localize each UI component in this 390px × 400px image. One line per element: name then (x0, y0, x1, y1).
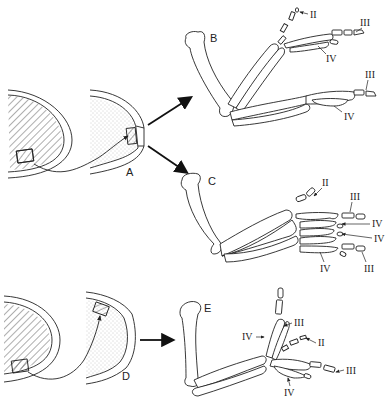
svg-text:II: II (322, 177, 329, 188)
svg-text:II: II (318, 337, 325, 348)
panel-label-e: E (204, 302, 211, 314)
svg-text:IV: IV (374, 233, 385, 244)
wing-skeleton-b (185, 8, 376, 126)
limb-graft-diagram: A B II III IV III (0, 0, 390, 400)
svg-text:IV: IV (284, 387, 295, 398)
arrow-to-b (148, 98, 190, 125)
arrow-to-c (148, 146, 186, 172)
svg-text:II: II (310, 9, 317, 20)
svg-text:IV: IV (344, 111, 355, 122)
host-limb-bud-top (90, 90, 144, 174)
donor-limb-bud-bottom (4, 296, 60, 382)
panel-label-b: B (210, 32, 217, 44)
svg-text:IV: IV (320, 263, 331, 274)
svg-text:IV: IV (242, 331, 253, 342)
svg-text:IV: IV (372, 218, 383, 229)
svg-text:III: III (364, 263, 374, 274)
svg-text:III: III (350, 191, 360, 202)
svg-text:III: III (365, 69, 375, 80)
panel-label-c: C (208, 175, 216, 187)
panel-label-a: A (126, 166, 134, 178)
svg-text:III: III (360, 17, 370, 28)
svg-text:IV: IV (326, 53, 337, 64)
donor-limb-bud-top (8, 90, 72, 178)
svg-text:III: III (294, 317, 304, 328)
svg-text:III: III (346, 365, 356, 376)
panel-label-d: D (122, 370, 130, 382)
